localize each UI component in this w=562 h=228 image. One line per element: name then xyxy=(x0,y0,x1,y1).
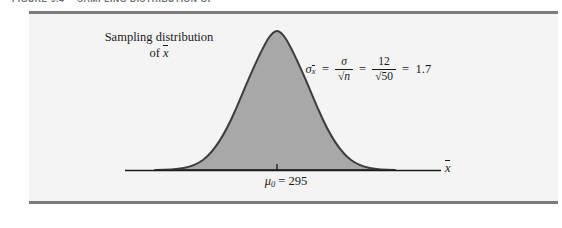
figure-caption: FIGURE 9.4SAMPLING DISTRIBUTION OF xyxy=(12,0,214,6)
radicand-1: n xyxy=(344,70,350,82)
equals-sign-1: = xyxy=(322,62,329,77)
x-axis-label: x xyxy=(445,160,451,176)
figure-caption-title: SAMPLING DISTRIBUTION OF xyxy=(77,0,213,4)
fraction-2-numerator: 12 xyxy=(375,56,393,69)
xbar-symbol: x xyxy=(163,45,169,61)
sampling-distribution-label-line1: Sampling distribution xyxy=(95,30,223,45)
radicand-2: 50 xyxy=(381,70,393,82)
equals-sign-3: = xyxy=(402,62,409,77)
figure-caption-number: FIGURE 9.4 xyxy=(12,0,64,4)
sigma-subscript: x xyxy=(312,65,316,76)
fraction-12-over-root-50: 12 √50 xyxy=(372,56,396,82)
mu-subscript: 0 xyxy=(271,179,275,189)
fraction-1-numerator: σ xyxy=(338,56,350,69)
of-word: of xyxy=(149,46,159,60)
mu-value: 295 xyxy=(289,174,308,188)
standard-error-value: 1.7 xyxy=(416,62,432,77)
equals-sign-2: = xyxy=(359,62,366,77)
fraction-sigma-over-root-n: σ √n xyxy=(335,56,353,82)
mu-symbol: μ0 xyxy=(265,174,276,188)
null-mean-label: μ0 = 295 xyxy=(241,174,331,189)
fraction-1-denominator: √n xyxy=(335,69,353,83)
sampling-distribution-label: Sampling distribution of x xyxy=(95,30,223,61)
equals-sign-mu: = xyxy=(278,174,285,188)
figure-panel: Sampling distribution of x σx = σ √n = 1… xyxy=(29,11,558,204)
xbar-axis-symbol: x xyxy=(445,160,451,176)
standard-error-formula: σx = σ √n = 12 √50 = 1.7 xyxy=(303,56,434,82)
sampling-distribution-label-line2: of x xyxy=(95,45,223,61)
fraction-2-denominator: √50 xyxy=(372,69,396,83)
sigma-symbol: σx xyxy=(306,62,316,77)
